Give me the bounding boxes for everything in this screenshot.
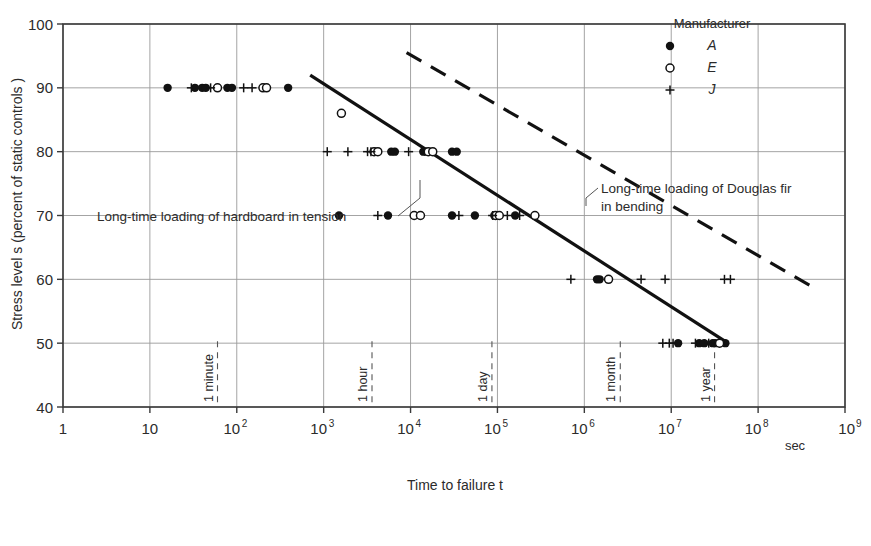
data-point-manufacturer-a [384,211,392,219]
data-point-manufacturer-e [605,275,613,283]
y-tick-label: 40 [36,399,53,416]
x-tick-label: 10 [571,420,588,437]
x-tick-label: 10 [745,420,762,437]
y-tick-label: 50 [36,335,53,352]
time-marker-label: 1 year [699,367,713,402]
data-point-manufacturer-a [163,84,171,92]
x-tick-label: 10 [838,420,855,437]
data-point-manufacturer-a [228,84,236,92]
y-tick-label: 60 [36,271,53,288]
chart-background [0,0,871,546]
time-marker-label: 1 minute [202,354,216,402]
data-point-manufacturer-e [531,212,539,220]
x-tick-label: 10 [658,420,675,437]
y-tick-label: 90 [36,79,53,96]
x-axis-title: Time to failure t [407,477,503,493]
x-tick-label: 10 [310,420,327,437]
data-point-manufacturer-e [429,148,437,156]
y-tick-label: 80 [36,143,53,160]
x-tick-exponent: 9 [856,418,862,429]
data-point-manufacturer-a [471,211,479,219]
x-tick-exponent: 4 [416,418,422,429]
figure-container: 405060708090100 110102103104105106107108… [0,0,871,546]
data-point-manufacturer-e [263,84,271,92]
x-tick-exponent: 7 [676,418,682,429]
time-marker-label: 1 month [604,357,618,402]
annotation-hardboard: Long-time loading of hardboard in tensio… [97,209,346,224]
data-point-manufacturer-e [716,339,724,347]
x-tick-exponent: 8 [763,418,769,429]
x-tick-exponent: 3 [329,418,335,429]
x-tick-label: 10 [484,420,501,437]
legend-title: Manufacturer [674,16,751,31]
x-tick-label: 1 [59,420,67,437]
data-point-manufacturer-a [595,275,603,283]
legend-label: E [707,59,717,75]
time-marker-label: 1 hour [356,367,370,402]
legend-marker-open-circle-icon [666,64,674,72]
data-point-manufacturer-a [284,84,292,92]
x-tick-exponent: 6 [589,418,595,429]
y-tick-label: 100 [28,16,53,33]
x-axis-unit-label: sec [785,438,806,453]
data-point-manufacturer-a [453,147,461,155]
y-tick-label: 70 [36,207,53,224]
time-marker-label: 1 day [476,371,490,402]
stress-vs-time-chart: 405060708090100 110102103104105106107108… [0,0,871,546]
x-tick-label: 10 [397,420,414,437]
x-tick-label: 10 [223,420,240,437]
annotation-douglas-fir-line2: in bending [601,199,663,214]
y-axis-title: Stress level s (percent of static contro… [9,78,25,330]
x-tick-label: 10 [142,420,159,437]
x-tick-exponent: 2 [242,418,248,429]
x-tick-exponent: 5 [502,418,508,429]
legend-label: A [706,37,716,53]
data-point-manufacturer-e [337,109,345,117]
annotation-douglas-fir-line1: Long-time loading of Douglas fir [601,181,792,196]
data-point-manufacturer-a [391,147,399,155]
data-point-manufacturer-e [416,212,424,220]
legend-label: J [708,81,717,97]
legend-marker-filled-circle-icon [666,42,674,50]
